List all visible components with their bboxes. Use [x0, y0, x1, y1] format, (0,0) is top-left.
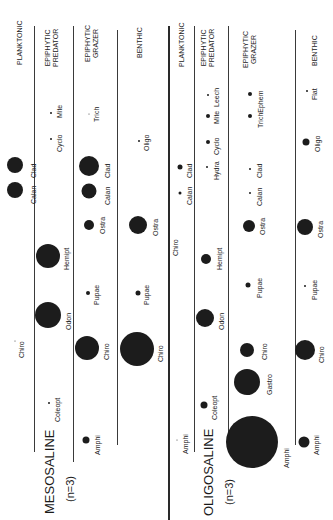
- meso-graz-amphi-dot: [83, 437, 90, 444]
- meso-plank-chiro-label: Chiro: [18, 341, 25, 358]
- meso-pred-odon-label: Odon: [65, 313, 72, 330]
- meso-divider-plankton-predator: [34, 26, 35, 452]
- oligo-benth-amphi-label: Amphi: [313, 435, 320, 455]
- oligo-benth-flat-label: Flat: [311, 88, 318, 100]
- oligo-graz-ephem-dot: [248, 92, 252, 96]
- oligo-benth-pupae-label: Pupae: [311, 280, 318, 300]
- oligo-graz-ostra-label: Ostra: [259, 218, 266, 235]
- oligo-benth-chiro-dot: [295, 340, 315, 360]
- oligo-graz-calan-dot: [249, 192, 251, 194]
- meso-graz-chiro-dot: [75, 336, 99, 360]
- meso-pred-coleopt-label: Coleopt: [54, 398, 61, 422]
- oligo-plank-amphi-label: Amphi: [182, 434, 189, 454]
- oligo-graz-amphi-label: Amphi: [283, 448, 290, 468]
- meso-benth-chiro-label: Chiro: [157, 345, 164, 362]
- oligo-plank-calan-label: Calan: [186, 187, 193, 205]
- oligo-benth-pupae-dot: [304, 285, 306, 287]
- meso-graz-chiro-label: Chiro: [103, 343, 110, 360]
- oligo-plank-clad-dot: [178, 165, 183, 170]
- meso-benthic-header: BENTHIC: [136, 27, 144, 58]
- meso-graz-amphi-label: Amphi: [94, 435, 101, 455]
- meso-grazer-header: EPIPHYTICGRAZER: [84, 25, 100, 62]
- oligo-graz-trichephem-label: TrichEphem: [257, 91, 264, 128]
- oligo-benth-ostra-dot: [297, 219, 313, 235]
- oligo-benth-flat-dot: [306, 90, 308, 92]
- oligo-pred-hydra-dot: [206, 166, 208, 168]
- meso-pred-cyclo-label: Cyclo: [56, 134, 63, 152]
- meso-pred-odon-dot: [35, 302, 61, 328]
- meso-pred-hemipt-label: Hemipt: [63, 248, 70, 270]
- meso-benth-ostra-dot: [129, 216, 147, 234]
- meso-benth-pupae-label: Pupae: [143, 285, 150, 305]
- oligo-pred-coleopt-dot: [201, 402, 208, 409]
- oligo-benth-amphi-dot: [299, 437, 310, 448]
- oligo-pred-coleopt-label: Coleopt: [211, 396, 218, 420]
- oligo-divider-predator-grazer: [228, 26, 229, 446]
- meso-plank-chiro-dot: [15, 341, 16, 342]
- oligo-graz-amphi-dot: [226, 416, 278, 468]
- oligo-graz-chiro-label: Chiro: [261, 343, 268, 360]
- oligo-graz-ostra-dot: [243, 220, 255, 232]
- meso-pred-coleopt-dot: [48, 402, 50, 404]
- meso-graz-trich-dot: [89, 114, 90, 115]
- meso-graz-ostra-dot: [84, 220, 94, 230]
- meso-benth-chiro-dot: [120, 332, 154, 366]
- oligo-plank-clad-label: Clad: [186, 164, 193, 178]
- meso-pred-mite-dot: [50, 112, 52, 114]
- meso-graz-ostra-label: Ostra: [99, 217, 106, 234]
- meso-plank-clad-label: Clad: [30, 164, 37, 178]
- oligo-pred-odon-label: Odon: [218, 313, 225, 330]
- oligo-pred-odon-dot: [196, 309, 214, 327]
- meso-graz-clad-label: Clad: [104, 164, 111, 178]
- oligo-benth-ostra-label: Ostra: [317, 221, 324, 238]
- meso-benth-ostra-label: Ostra: [152, 219, 159, 236]
- oligo-plank-chiro-label: Chiro: [172, 239, 179, 256]
- oligo-pred-leech-dot: [207, 94, 209, 96]
- oligo-grazer-header: EPIPHYTICGRAZER: [242, 31, 258, 68]
- oligo-pred-cyclo-label: Cyclo: [213, 137, 220, 155]
- oligo-divider-grazer-benthic: [295, 30, 296, 445]
- meso-graz-calan-dot: [82, 184, 97, 199]
- oligo-plank-amphi-dot: [177, 440, 178, 441]
- meso-predator-header: EPIPHYTICPREDATOR: [44, 29, 60, 67]
- oligo-graz-calan-label: Calan: [256, 188, 263, 206]
- meso-graz-trich-label: Trich: [93, 107, 100, 122]
- meso-graz-pupae-label: Pupae: [93, 285, 100, 305]
- oligo-benth-oligo-label: Oligo: [314, 136, 321, 152]
- oligosaline-n-label: (n=3): [224, 479, 235, 505]
- meso-plank-calan-label: Calan: [30, 186, 37, 204]
- oligo-graz-pupae-dot: [246, 283, 251, 288]
- oligo-graz-clad-dot: [249, 168, 251, 170]
- oligo-predator-header: EPIPHYTICPREDATOR: [200, 29, 216, 67]
- meso-graz-calan-label: Calan: [104, 187, 111, 205]
- oligo-benth-oligo-dot: [303, 139, 310, 146]
- oligo-pred-leech-label: Leech: [213, 88, 220, 107]
- meso-pred-mite-label: Mite: [56, 105, 63, 118]
- oligosaline-title: OLIGOSALINE: [202, 429, 215, 516]
- oligo-divider-plankton-predator: [194, 26, 195, 452]
- oligo-pred-mite-label: Mite: [213, 111, 220, 124]
- meso-pred-hemipt-dot: [36, 244, 60, 268]
- meso-divider-grazer-benthic: [117, 30, 118, 445]
- meso-benth-oligo-label: Oligo: [143, 135, 150, 151]
- mesosaline-n-label: (n=3): [65, 476, 76, 502]
- block-divider: [168, 26, 170, 520]
- oligo-graz-trich-dot: [248, 114, 252, 118]
- meso-graz-clad-dot: [79, 156, 99, 176]
- meso-plank-calan-dot: [7, 182, 23, 198]
- meso-planktonic-header: PLANKTONIC: [16, 20, 24, 65]
- oligo-graz-gastro-label: Gastro: [266, 374, 273, 395]
- oligo-graz-chiro-dot: [240, 343, 254, 357]
- oligo-benthic-header: BENTHIC: [311, 35, 319, 66]
- oligo-graz-gastro-dot: [234, 369, 260, 395]
- meso-graz-pupae-dot: [86, 291, 90, 295]
- meso-pred-cyclo-dot: [50, 138, 52, 140]
- oligo-benth-chiro-label: Chiro: [318, 346, 325, 363]
- meso-benth-oligo-dot: [138, 140, 140, 142]
- oligo-graz-pupae-label: Pupae: [256, 278, 263, 298]
- oligo-pred-mite-dot: [206, 114, 210, 118]
- meso-plank-clad-dot: [7, 157, 23, 173]
- oligo-pred-hemipt-label: Hemipt: [216, 248, 223, 270]
- oligo-planktonic-header: PLANKTONIC: [178, 22, 186, 67]
- oligo-plank-calan-dot: [179, 192, 182, 195]
